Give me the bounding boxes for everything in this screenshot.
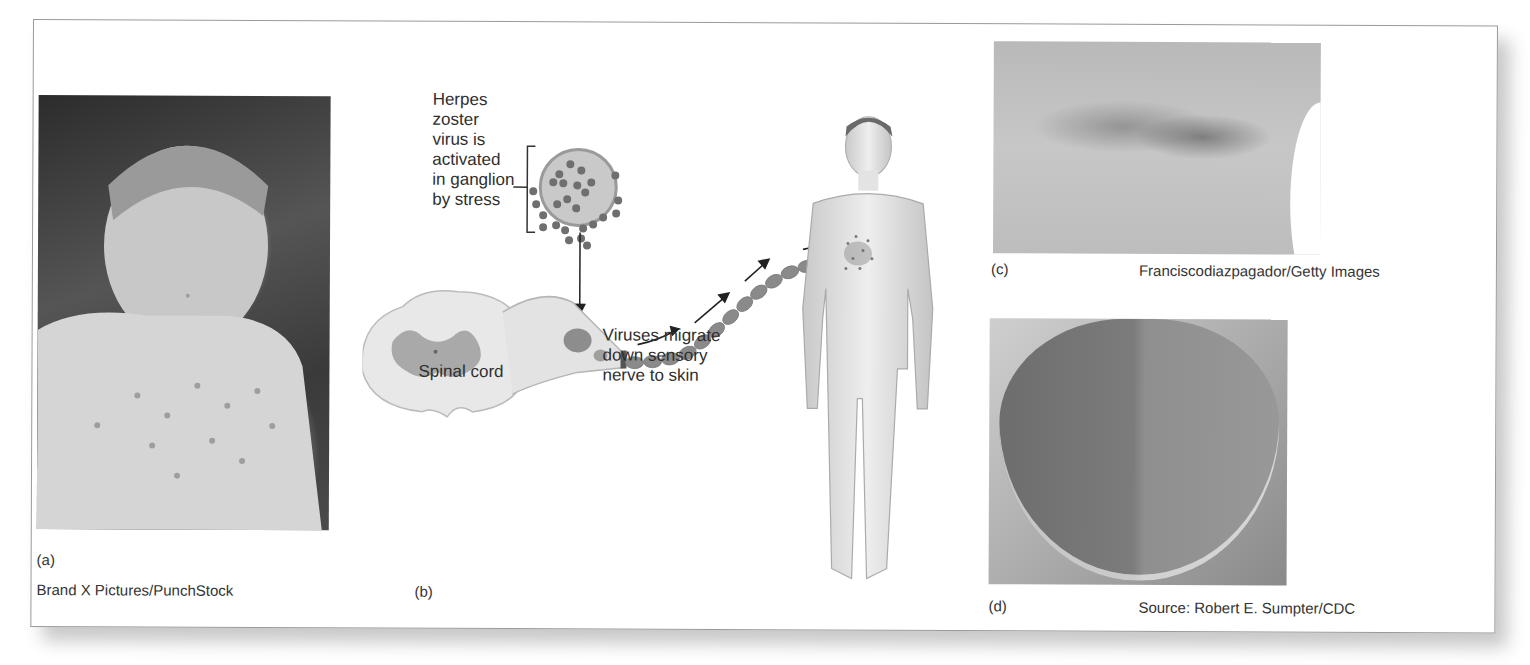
annotation-line: down sensory <box>602 345 720 366</box>
migration-annotation: Viruses migrate down sensory nerve to sk… <box>602 325 720 386</box>
human-figure-icon <box>767 108 969 594</box>
panel-d-label: (d) <box>988 597 1006 614</box>
photo-shingles-rash <box>993 41 1321 254</box>
photo-child-chickenpox <box>37 95 331 530</box>
photo-tongue-lesions <box>989 318 1288 585</box>
tongue-shape <box>999 318 1280 581</box>
panel-a-label: (a) <box>37 551 55 568</box>
torso-edge <box>1290 102 1321 254</box>
annotation-line: nerve to skin <box>602 365 720 386</box>
panel-d-credit: Source: Robert E. Sumpter/CDC <box>1138 599 1355 617</box>
panel-b-label: (b) <box>414 583 432 600</box>
spinal-cord-icon <box>362 290 627 417</box>
annotation-line: Viruses migrate <box>603 325 721 346</box>
panel-c-label: (c) <box>991 260 1009 277</box>
virus-cell-icon <box>529 149 622 249</box>
figure-panel: (a) Brand X Pictures/PunchStock Herpes z… <box>30 19 1498 633</box>
spinal-cord-label: Spinal cord <box>418 362 503 382</box>
panel-a-credit: Brand X Pictures/PunchStock <box>36 581 233 599</box>
child-silhouette-icon <box>37 95 331 530</box>
panel-c-credit: Franciscodiazpagador/Getty Images <box>1139 262 1380 280</box>
